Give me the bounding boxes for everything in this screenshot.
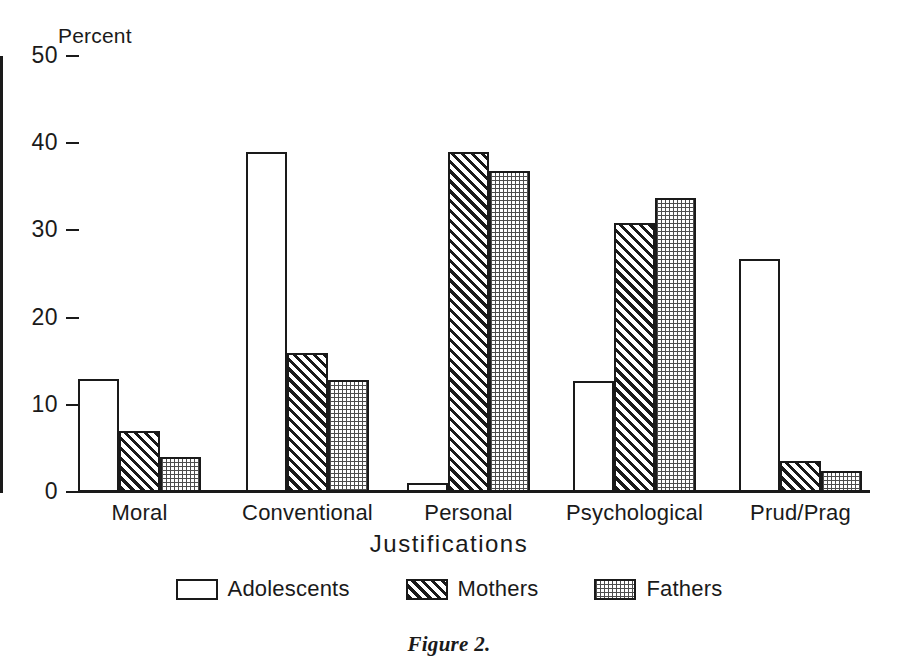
y-axis-tick-label: 10	[12, 393, 58, 416]
legend-label: Mothers	[458, 576, 539, 602]
bar	[407, 483, 448, 492]
legend-label: Adolescents	[228, 576, 350, 602]
legend-item: Adolescents	[176, 576, 350, 602]
y-axis-tick-label-wrap: 30	[0, 218, 58, 242]
bar	[119, 431, 160, 492]
y-axis-tick-label: 50	[12, 44, 58, 67]
chart-legend: AdolescentsMothersFathers	[0, 576, 898, 602]
y-axis-tick-label-wrap: 40	[0, 131, 58, 155]
plot-area	[78, 56, 870, 492]
bar	[160, 457, 201, 492]
bar	[287, 353, 328, 492]
diagonal-hatch-box-icon	[406, 579, 448, 600]
figure-2-bar-chart: Percent 01020304050 MoralConventionalPer…	[0, 0, 898, 668]
figure-caption: Figure 2.	[0, 632, 898, 657]
y-axis-tick-label-wrap: 50	[0, 44, 58, 68]
bar	[821, 471, 862, 492]
bar	[246, 152, 287, 492]
legend-label: Fathers	[646, 576, 722, 602]
bar	[328, 380, 369, 492]
bar	[739, 259, 780, 492]
bar	[780, 461, 821, 492]
x-axis-group-label: Prud/Prag	[681, 500, 898, 526]
bar	[489, 171, 530, 492]
y-axis-tick-label: 20	[12, 306, 58, 329]
y-axis-tick-label: 30	[12, 218, 58, 241]
bar	[614, 223, 655, 492]
white-open-box-icon	[176, 579, 218, 600]
stippled-dot-box-icon	[594, 579, 636, 600]
bar	[573, 381, 614, 492]
y-axis-tick-label-wrap: 10	[0, 393, 58, 417]
bar	[78, 379, 119, 492]
y-axis-tick-label: 40	[12, 131, 58, 154]
legend-item: Fathers	[594, 576, 722, 602]
y-axis-tick-label-wrap: 20	[0, 306, 58, 330]
x-axis-title: Justifications	[0, 530, 898, 558]
y-axis-line	[0, 56, 3, 493]
y-axis-title: Percent	[58, 24, 132, 48]
bar	[448, 152, 489, 492]
bar	[655, 198, 696, 492]
legend-item: Mothers	[406, 576, 539, 602]
